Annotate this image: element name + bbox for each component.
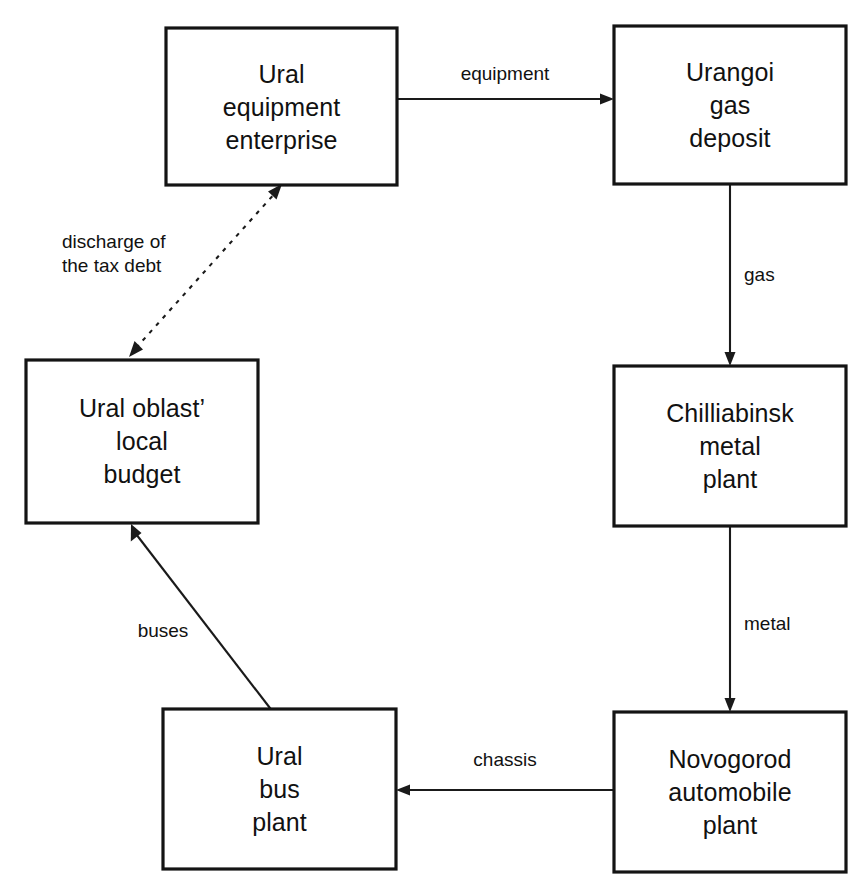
- edge-label-gas: gas: [744, 264, 775, 285]
- node-label-line2: automobile: [668, 778, 791, 806]
- edge-equipment-arrowhead: [600, 94, 614, 105]
- node-novogorod-automobile-plant[interactable]: Novogorod automobile plant: [614, 712, 846, 872]
- edge-label-discharge-line2: the tax debt: [62, 255, 162, 276]
- edge-gas-arrowhead: [725, 352, 736, 366]
- edge-metal[interactable]: metal: [725, 526, 791, 712]
- node-label-line1: Urangoi: [686, 58, 774, 86]
- node-label-line1: Ural: [258, 60, 304, 88]
- edge-equipment[interactable]: equipment: [397, 63, 614, 105]
- node-label-line3: deposit: [689, 124, 770, 152]
- flow-diagram-canvas: equipment gas metal chassis buses: [0, 0, 862, 890]
- node-label-line1: Novogorod: [668, 745, 791, 773]
- node-label-line1: Ural: [256, 742, 302, 770]
- edge-label-buses: buses: [138, 620, 189, 641]
- node-label-line2: bus: [259, 775, 300, 803]
- node-label-line3: plant: [703, 465, 758, 493]
- node-ural-equipment-enterprise[interactable]: Ural equipment enterprise: [166, 28, 397, 185]
- edge-label-discharge-line1: discharge of: [62, 231, 166, 252]
- node-label-line3: plant: [252, 808, 307, 836]
- node-label-line2: metal: [699, 432, 761, 460]
- node-label-line3: enterprise: [225, 126, 337, 154]
- node-ural-bus-plant[interactable]: Ural bus plant: [163, 709, 396, 869]
- edge-chassis-arrowhead: [396, 785, 410, 796]
- edge-discharge-of-the-tax-debt[interactable]: discharge of the tax debt: [62, 184, 282, 357]
- edge-discharge-arrowhead-bottom: [129, 341, 143, 357]
- node-label-line2: gas: [710, 91, 751, 119]
- edge-chassis[interactable]: chassis: [396, 749, 614, 796]
- node-label-line2: equipment: [223, 93, 341, 121]
- edge-buses[interactable]: buses: [131, 524, 273, 712]
- node-label-line1: Ural oblast’: [79, 394, 205, 422]
- node-ural-oblast-local-budget[interactable]: Ural oblast’ local budget: [26, 360, 258, 523]
- edge-label-equipment: equipment: [461, 63, 550, 84]
- edge-metal-arrowhead: [725, 698, 736, 712]
- node-urangoi-gas-deposit[interactable]: Urangoi gas deposit: [614, 26, 846, 184]
- node-label-line2: local: [116, 427, 168, 455]
- node-label-line1: Chilliabinsk: [666, 399, 794, 427]
- node-label-line3: plant: [703, 811, 758, 839]
- edge-label-chassis: chassis: [473, 749, 536, 770]
- flow-diagram-svg: equipment gas metal chassis buses: [0, 0, 862, 890]
- node-chilliabinsk-metal-plant[interactable]: Chilliabinsk metal plant: [614, 366, 846, 526]
- edge-gas[interactable]: gas: [725, 184, 775, 366]
- node-label-line3: budget: [103, 460, 180, 488]
- edge-label-metal: metal: [744, 613, 790, 634]
